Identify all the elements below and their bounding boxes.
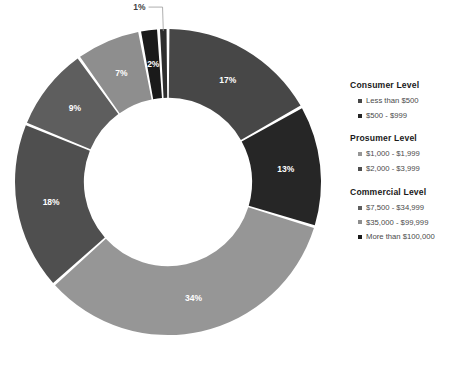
- donut-slices: [15, 29, 321, 335]
- legend-item-label: $35,000 - $99,999: [366, 219, 428, 227]
- legend-item-label: $7,500 - $34,999: [366, 204, 424, 212]
- legend-swatch-icon: [358, 152, 362, 156]
- legend-item[interactable]: $1,000 - $1,999: [350, 150, 454, 158]
- donut-slice-label: 13%: [277, 164, 294, 174]
- legend-item[interactable]: More than $100,000: [350, 233, 454, 241]
- legend-item-label: Less than $500: [366, 97, 419, 105]
- legend-group: Consumer LevelLess than $500$500 - $999: [350, 80, 454, 119]
- legend-item-label: More than $100,000: [366, 233, 435, 241]
- legend-group-title: Consumer Level: [350, 80, 454, 90]
- donut-leader-lines: [149, 7, 164, 31]
- donut-slice-label: 34%: [185, 293, 202, 303]
- legend-item[interactable]: $7,500 - $34,999: [350, 204, 454, 212]
- donut-slice-label: 17%: [219, 75, 236, 85]
- chart-page: 17%13%34%18%9%7%2%1% Consumer LevelLess …: [0, 0, 454, 377]
- legend-item[interactable]: Less than $500: [350, 97, 454, 105]
- donut-slice-label: 7%: [115, 68, 128, 78]
- legend-item[interactable]: $500 - $999: [350, 112, 454, 120]
- legend-swatch-icon: [358, 206, 362, 210]
- legend-swatch-icon: [358, 114, 362, 118]
- legend-group: Commercial Level$7,500 - $34,999$35,000 …: [350, 187, 454, 241]
- legend-group-title: Commercial Level: [350, 187, 454, 197]
- legend-item-label: $500 - $999: [366, 112, 407, 120]
- legend-item-label: $2,000 - $3,999: [366, 165, 420, 173]
- legend-swatch-icon: [358, 220, 362, 224]
- legend-item-label: $1,000 - $1,999: [366, 150, 420, 158]
- legend-swatch-icon: [358, 99, 362, 103]
- chart-legend: Consumer LevelLess than $500$500 - $999P…: [350, 80, 454, 241]
- donut-chart-svg: 17%13%34%18%9%7%2%1%: [0, 0, 340, 377]
- legend-group: Prosumer Level$1,000 - $1,999$2,000 - $3…: [350, 133, 454, 172]
- donut-label-leader-line: [149, 7, 164, 31]
- donut-chart: 17%13%34%18%9%7%2%1%: [0, 0, 340, 377]
- legend-item[interactable]: $2,000 - $3,999: [350, 165, 454, 173]
- donut-slice-label: 2%: [147, 59, 160, 69]
- legend-item[interactable]: $35,000 - $99,999: [350, 219, 454, 227]
- donut-slice-label: 1%: [133, 2, 146, 12]
- donut-slice-label: 18%: [43, 197, 60, 207]
- donut-slice-label: 9%: [69, 103, 82, 113]
- legend-swatch-icon: [358, 167, 362, 171]
- legend-group-title: Prosumer Level: [350, 133, 454, 143]
- legend-swatch-icon: [358, 235, 362, 239]
